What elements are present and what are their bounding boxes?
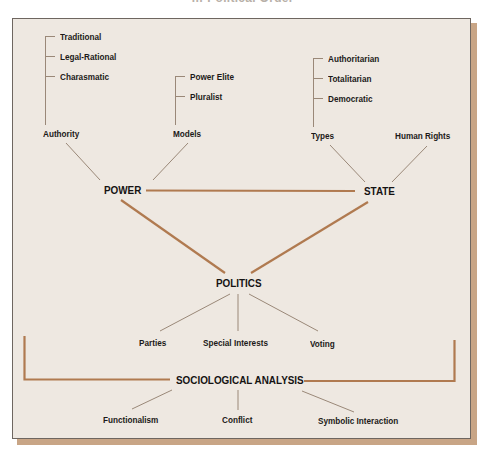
authority-tree-lines: [45, 36, 55, 125]
analysis-conflict: Conflict: [222, 414, 252, 425]
types-tree-lines: [313, 58, 323, 127]
node-power: POWER: [104, 184, 141, 197]
state-type-democratic: Democratic: [328, 93, 373, 104]
analysis-symbolic-interaction: Symbolic Interaction: [318, 415, 398, 426]
authority-type-legal-rational: Legal-Rational: [60, 51, 116, 62]
model-power-elite: Power Elite: [190, 71, 234, 82]
politics-parties: Parties: [139, 337, 166, 348]
connector-lines: [0, 0, 485, 457]
politics-special-interests: Special Interests: [203, 337, 268, 348]
types-label: Types: [311, 130, 334, 141]
state-type-authoritarian: Authoritarian: [328, 53, 379, 64]
model-pluralist: Pluralist: [190, 91, 222, 102]
models-label: Models: [173, 128, 201, 139]
authority-label: Authority: [43, 128, 79, 139]
analysis-functionalism: Functionalism: [103, 414, 158, 425]
node-sociological-analysis: SOCIOLOGICAL ANALYSIS: [176, 374, 304, 387]
state-type-totalitarian: Totalitarian: [328, 73, 371, 84]
models-tree-lines: [175, 76, 185, 125]
node-state: STATE: [364, 185, 395, 198]
authority-type-traditional: Traditional: [60, 31, 101, 42]
human-rights-label: Human Rights: [395, 130, 450, 141]
politics-voting: Voting: [310, 338, 335, 349]
node-politics: POLITICS: [216, 277, 262, 290]
authority-type-charismatic: Charasmatic: [60, 71, 109, 82]
